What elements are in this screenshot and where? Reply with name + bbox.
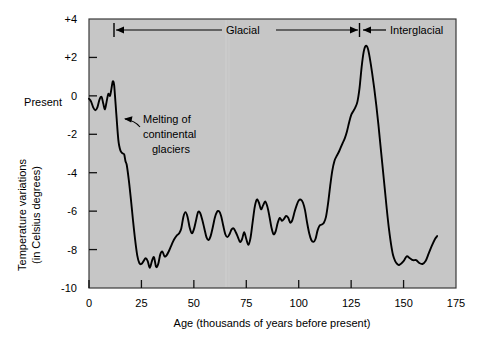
plot-area-background [89, 19, 456, 288]
x-tick-label-0: 0 [86, 297, 92, 309]
x-axis-title: Age (thousands of years before present) [174, 317, 371, 329]
y-tick-label--8: -8 [67, 244, 77, 256]
x-tick-label-25: 25 [135, 297, 147, 309]
callout-line-1: Melting of [143, 113, 192, 125]
y-tick-label--2: -2 [67, 128, 77, 140]
y-tick-label--4: -4 [67, 167, 77, 179]
callout-line-3: glaciers [152, 143, 190, 155]
y-tick-label-+2: +2 [64, 51, 77, 63]
y-axis-title-line-1: Temperature variations [16, 159, 28, 271]
callout-line-2: continental [143, 128, 196, 140]
y-tick-label--10: -10 [61, 282, 77, 294]
x-tick-label-175: 175 [447, 297, 465, 309]
x-tick-label-150: 150 [394, 297, 412, 309]
x-tick-label-50: 50 [188, 297, 200, 309]
x-tick-label-100: 100 [290, 297, 308, 309]
y-tick-label-+4: +4 [64, 13, 77, 25]
y-tick-label--6: -6 [67, 205, 77, 217]
x-tick-label-75: 75 [240, 297, 252, 309]
y-axis-title-line-2: (in Celsius degrees) [30, 166, 42, 264]
interglacial-band-label: Interglacial [390, 24, 443, 36]
x-tick-label-125: 125 [342, 297, 360, 309]
temperature-variation-chart: -10-8-6-4-20+2+4 0255075100125150175 Gla… [0, 0, 477, 340]
chart-svg: -10-8-6-4-20+2+4 0255075100125150175 Gla… [0, 0, 477, 340]
present-label: Present [24, 96, 62, 108]
glacial-band-label: Glacial [226, 24, 260, 36]
y-tick-label-0: 0 [71, 90, 77, 102]
